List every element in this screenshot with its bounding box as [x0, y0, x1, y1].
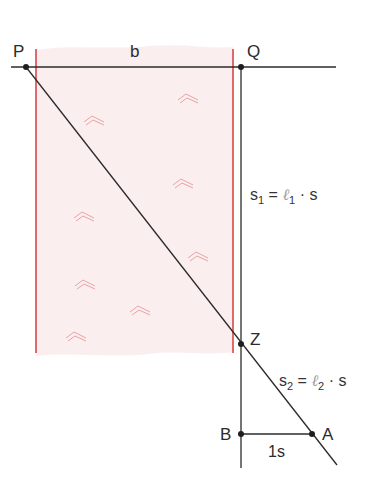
point-P — [23, 64, 29, 70]
point-B — [238, 431, 244, 437]
equation-s1: s1 = ℓ1 · s — [250, 187, 317, 206]
eq1-ell-sub: 1 — [289, 194, 295, 206]
river-area — [36, 45, 233, 356]
eq2-lhs: s — [279, 372, 287, 389]
eq2-rhs: s — [338, 372, 346, 389]
label-Q: Q — [247, 43, 260, 60]
point-Z — [238, 341, 244, 347]
eq2-dot: · — [329, 372, 334, 389]
equation-s2: s2 = ℓ2 · s — [279, 373, 346, 392]
river-crossing-diagram — [0, 0, 375, 502]
eq1-rhs: s — [309, 186, 317, 203]
eq1-dot: · — [300, 186, 305, 203]
label-B: B — [220, 426, 231, 443]
label-width-b: b — [130, 43, 139, 60]
eq1-lhs-sub: 1 — [258, 194, 264, 206]
eq1-equals: = — [269, 186, 278, 203]
point-Q — [238, 64, 244, 70]
eq2-equals: = — [298, 372, 307, 389]
label-unit-segment: 1s — [268, 444, 285, 460]
point-A — [309, 431, 315, 437]
eq2-ell-sub: 2 — [318, 380, 324, 392]
label-P: P — [13, 43, 24, 60]
eq1-lhs: s — [250, 186, 258, 203]
label-Z: Z — [250, 331, 260, 348]
eq2-lhs-sub: 2 — [287, 380, 293, 392]
label-A: A — [322, 426, 333, 443]
